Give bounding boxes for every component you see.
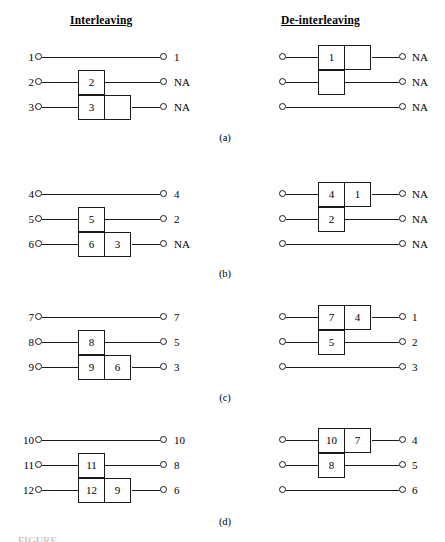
- delay-register-block: [318, 70, 345, 95]
- signal-wire: [372, 57, 399, 58]
- signal-wire: [372, 440, 399, 441]
- signal-wire: [286, 194, 318, 195]
- input-terminal-circle: [279, 103, 286, 110]
- output-terminal-circle: [399, 461, 406, 468]
- signal-wire: [345, 465, 399, 466]
- delay-register-block: 107: [318, 428, 371, 453]
- delay-cell: 2: [318, 207, 345, 232]
- delay-cell: 10: [318, 428, 345, 453]
- delay-cell: 8: [78, 330, 105, 355]
- output-terminal-circle: [399, 215, 406, 222]
- delay-cell: 3: [78, 95, 105, 120]
- input-index-label: 12: [12, 484, 34, 496]
- output-index-label: 2: [412, 336, 418, 348]
- delay-cell: 7: [318, 305, 345, 330]
- output-terminal-circle: [160, 486, 167, 493]
- delay-cell: 8: [318, 453, 345, 478]
- delay-cell: 11: [78, 453, 105, 478]
- output-terminal-circle: [160, 240, 167, 247]
- input-terminal-circle: [35, 363, 42, 370]
- input-terminal-circle: [279, 78, 286, 85]
- output-terminal-circle: [160, 436, 167, 443]
- output-terminal-circle: [399, 190, 406, 197]
- signal-wire: [345, 342, 399, 343]
- input-terminal-circle: [279, 240, 286, 247]
- signal-wire: [286, 82, 318, 83]
- signal-wire: [132, 244, 160, 245]
- delay-register-block: 1: [318, 45, 371, 70]
- input-index-label: 5: [12, 213, 34, 225]
- output-terminal-circle: [399, 103, 406, 110]
- output-terminal-circle: [399, 78, 406, 85]
- input-index-label: 11: [12, 459, 34, 471]
- delay-register-block: 5: [78, 207, 105, 232]
- delay-register-block: 129: [78, 478, 131, 503]
- input-terminal-circle: [279, 215, 286, 222]
- delay-register-block: 3: [78, 95, 131, 120]
- signal-wire: [42, 107, 78, 108]
- delay-cell: 4: [344, 305, 371, 330]
- signal-wire: [42, 317, 160, 318]
- delay-cell: 9: [78, 355, 105, 380]
- input-index-label: 7: [12, 311, 34, 323]
- input-terminal-circle: [35, 240, 42, 247]
- input-terminal-circle: [35, 53, 42, 60]
- signal-wire: [286, 440, 318, 441]
- output-terminal-circle: [399, 313, 406, 320]
- signal-wire: [372, 317, 399, 318]
- output-index-label: 4: [174, 188, 180, 200]
- output-index-label: 1: [412, 311, 418, 323]
- signal-wire: [286, 244, 399, 245]
- delay-register-block: 63: [78, 232, 131, 257]
- input-terminal-circle: [279, 313, 286, 320]
- input-terminal-circle: [279, 190, 286, 197]
- output-index-label: 5: [174, 336, 180, 348]
- delay-cell: 1: [318, 45, 345, 70]
- input-terminal-circle: [279, 436, 286, 443]
- output-index-label: 3: [174, 361, 180, 373]
- input-terminal-circle: [279, 338, 286, 345]
- delay-register-block: 8: [318, 453, 345, 478]
- panel-label: (b): [205, 268, 245, 279]
- delay-cell: 7: [344, 428, 371, 453]
- delay-cell: 3: [104, 232, 131, 257]
- signal-wire: [286, 219, 318, 220]
- output-terminal-circle: [160, 338, 167, 345]
- signal-wire: [42, 244, 78, 245]
- output-index-label: 8: [174, 459, 180, 471]
- signal-wire: [105, 219, 160, 220]
- input-terminal-circle: [35, 190, 42, 197]
- output-index-label: NA: [412, 213, 428, 225]
- input-terminal-circle: [35, 103, 42, 110]
- delay-cell: 6: [104, 355, 131, 380]
- signal-wire: [105, 465, 160, 466]
- output-terminal-circle: [160, 190, 167, 197]
- input-terminal-circle: [35, 215, 42, 222]
- output-index-label: NA: [412, 76, 428, 88]
- signal-wire: [42, 342, 78, 343]
- signal-wire: [132, 490, 160, 491]
- output-terminal-circle: [399, 436, 406, 443]
- output-terminal-circle: [399, 486, 406, 493]
- figure-canvas: Interleaving De-interleaving 1122NA33NA1…: [0, 0, 445, 542]
- signal-wire: [286, 367, 399, 368]
- input-index-label: 10: [12, 434, 34, 446]
- input-terminal-circle: [35, 313, 42, 320]
- signal-wire: [286, 317, 318, 318]
- delay-register-block: 2: [318, 207, 345, 232]
- input-terminal-circle: [279, 363, 286, 370]
- column-header-deinterleaving: De-interleaving: [281, 14, 360, 26]
- signal-wire: [42, 465, 78, 466]
- signal-wire: [345, 82, 399, 83]
- signal-wire: [42, 194, 160, 195]
- delay-cell-empty: [318, 70, 345, 95]
- delay-cell-empty: [104, 95, 131, 120]
- input-terminal-circle: [35, 78, 42, 85]
- delay-cell: 5: [318, 330, 345, 355]
- input-terminal-circle: [35, 486, 42, 493]
- delay-register-block: 2: [78, 70, 105, 95]
- delay-cell: 6: [78, 232, 105, 257]
- input-index-label: 4: [12, 188, 34, 200]
- input-index-label: 3: [12, 101, 34, 113]
- signal-wire: [286, 342, 318, 343]
